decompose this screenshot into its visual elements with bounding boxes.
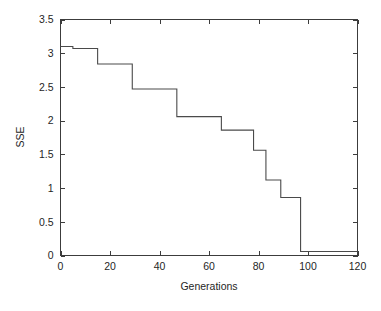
x-tick-label: 100 xyxy=(299,260,317,272)
x-tick-label: 60 xyxy=(203,260,215,272)
x-axis-title: Generations xyxy=(180,280,237,292)
y-tick-label: 1 xyxy=(48,182,54,194)
sse-step-line xyxy=(61,46,358,251)
x-tick-label: 120 xyxy=(349,260,367,272)
y-axis-ticks xyxy=(61,21,358,257)
x-tick-label: 40 xyxy=(154,260,166,272)
sse-generations-line-chart: 020406080100120 00.511.522.533.5 Generat… xyxy=(0,0,381,311)
y-axis-tick-labels: 00.511.522.533.5 xyxy=(39,13,54,261)
x-tick-label: 0 xyxy=(58,260,64,272)
y-tick-label: 0.5 xyxy=(39,216,54,228)
y-axis-title: SSE xyxy=(14,126,26,147)
y-tick-label: 3.5 xyxy=(39,13,54,25)
y-tick-label: 0 xyxy=(48,249,54,261)
y-tick-label: 2 xyxy=(48,114,54,126)
x-axis-tick-labels: 020406080100120 xyxy=(58,260,367,272)
y-tick-label: 2.5 xyxy=(39,81,54,93)
plot-frame xyxy=(61,20,358,256)
y-tick-label: 1.5 xyxy=(39,148,54,160)
x-tick-label: 20 xyxy=(104,260,116,272)
chart-figure: 020406080100120 00.511.522.533.5 Generat… xyxy=(0,0,381,311)
x-axis-ticks xyxy=(62,20,359,256)
x-tick-label: 80 xyxy=(253,260,265,272)
y-tick-label: 3 xyxy=(48,47,54,59)
